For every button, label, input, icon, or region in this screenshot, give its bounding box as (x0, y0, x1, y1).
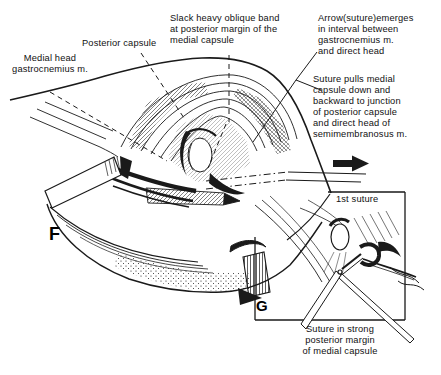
panel-letter-f: F (49, 224, 60, 245)
needle (363, 259, 416, 277)
main-specimen (10, 58, 338, 305)
label-arrow-suture-emerges: Arrow(suture)emerges in interval between… (318, 13, 413, 57)
right-retractor (230, 241, 266, 253)
label-slack-oblique-band: Slack heavy oblique band at posterior ma… (170, 13, 280, 46)
suture-arrow-icon (333, 156, 369, 172)
left-retractor (45, 157, 121, 208)
label-suture-pulls: Suture pulls medial capsule down and bac… (313, 74, 407, 140)
surgical-figure: Medial head gastrocnemius m. Posterior c… (0, 0, 441, 375)
label-medial-head-gastrocnemius: Medial head gastrocnemius m. (4, 53, 96, 75)
inset-panel-g (255, 192, 424, 343)
inset-border (255, 192, 405, 320)
panel-letter-g: G (256, 297, 268, 314)
label-first-suture: 1st suture (336, 194, 378, 205)
label-posterior-capsule: Posterior capsule (82, 38, 156, 49)
label-inset-caption: Suture in strong posterior margin of med… (288, 324, 392, 357)
